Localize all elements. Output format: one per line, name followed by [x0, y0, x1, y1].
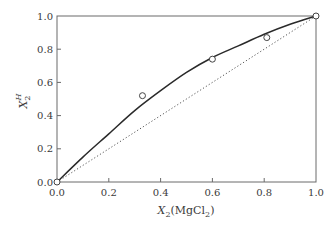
x-tick-label: 0.6	[204, 187, 220, 198]
y-tick-label: 0.6	[37, 77, 53, 88]
y-tick-label: 1.0	[37, 11, 53, 22]
data-point	[139, 93, 145, 99]
x-tick-label: 0.2	[101, 187, 117, 198]
y-axis-title: X2H	[14, 93, 32, 110]
y-tick-label: 0.8	[37, 44, 53, 55]
x-axis-title: X2(MgCl2)	[157, 204, 215, 219]
x-tick-label: 0.4	[153, 187, 169, 198]
diagonal-reference-line	[57, 16, 316, 182]
y-tick-label: 0.0	[37, 177, 53, 188]
data-point	[54, 179, 60, 185]
data-point	[264, 35, 270, 41]
x-tick-label: 0.8	[256, 187, 272, 198]
y-tick-label: 0.2	[37, 143, 53, 154]
x-tick-label: 1.0	[308, 187, 324, 198]
x-tick-label: 0.0	[49, 187, 65, 198]
data-point	[209, 56, 215, 62]
y-tick-label: 0.4	[37, 110, 53, 121]
data-series	[54, 13, 319, 185]
chart: 0.00.20.40.60.81.00.00.20.40.60.81.0 X2(…	[0, 0, 333, 228]
data-point	[313, 13, 319, 19]
